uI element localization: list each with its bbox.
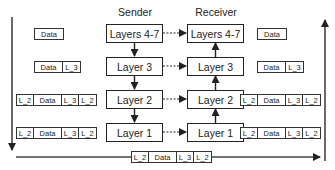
sender-layer-2: Layer 2 [106,90,163,109]
sender-label: Sender [110,6,160,18]
packet-field-l3-header: L_3 [286,95,303,105]
packet-field-l2-trailer: L_2 [303,95,320,105]
receiver-packet-l2: L_2 Data L_3 L_2 [240,94,321,106]
receiver-layer-3: Layer 3 [187,57,244,76]
receiver-layer-1: Layer 1 [187,123,244,142]
packet-field-l2-trailer: L_2 [194,152,211,162]
packet-field-data: Data [258,29,286,39]
connection-lines [0,0,335,170]
packet-field-l3-header: L_3 [177,152,194,162]
packet-field-l2-header: L_2 [17,95,34,105]
sender-layer-3: Layer 3 [106,57,163,76]
packet-field-data: Data [258,95,286,105]
receiver-layers-4-7: Layers 4-7 [187,24,244,43]
packet-field-data: Data [34,95,62,105]
packet-field-l2-header: L_2 [241,128,258,138]
packet-field-l2-header: L_2 [17,128,34,138]
receiver-label: Receiver [186,6,246,18]
receiver-packet-l3: Data L_3 [257,61,304,73]
packet-field-data: Data [258,128,286,138]
packet-field-l3-header: L_3 [63,62,80,72]
sender-packet-l3: Data L_3 [34,61,81,73]
packet-field-l3-header: L_3 [62,95,79,105]
receiver-packet-l1: L_2 Data L_3 L_2 [240,127,321,139]
receiver-layer-2: Layer 2 [187,90,244,109]
packet-field-l2-header: L_2 [132,152,149,162]
sender-layer-1: Layer 1 [106,123,163,142]
packet-field-data: Data [258,62,286,72]
packet-field-data: Data [34,128,62,138]
sender-packet-l2: L_2 Data L_3 L_2 [16,94,97,106]
packet-field-l3-header: L_3 [286,62,303,72]
packet-field-l2-trailer: L_2 [79,128,96,138]
sender-packet-l1: L_2 Data L_3 L_2 [16,127,97,139]
packet-field-data: Data [149,152,177,162]
packet-field-l3-header: L_3 [286,128,303,138]
packet-field-l2-trailer: L_2 [79,95,96,105]
packet-field-data: Data [35,62,63,72]
packet-field-l2-header: L_2 [241,95,258,105]
sender-layers-4-7: Layers 4-7 [106,24,163,43]
packet-field-l3-header: L_3 [62,128,79,138]
packet-field-data: Data [35,29,63,39]
packet-field-l2-trailer: L_2 [303,128,320,138]
sender-packet-l4: Data [34,28,64,40]
receiver-packet-l4: Data [257,28,287,40]
wire-packet: L_2 Data L_3 L_2 [131,151,212,163]
